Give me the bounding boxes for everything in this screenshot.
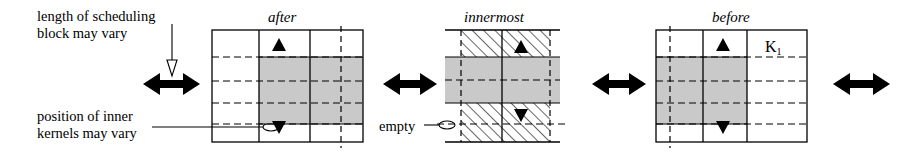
block-innermost-hatch-bottom [461, 103, 550, 142]
block-before-arrow-down [716, 121, 730, 134]
double-arrow-after-innermost [383, 73, 437, 95]
block-before [656, 26, 807, 148]
double-arrow-left [143, 73, 200, 95]
double-arrow-right [833, 73, 890, 95]
block-innermost [437, 30, 568, 142]
figure-canvas: length of scheduling block may vary posi… [0, 0, 901, 155]
block-before-arrow-up [716, 38, 730, 51]
double-arrow-innermost-before [592, 73, 646, 95]
block-after-shade [259, 57, 363, 124]
block-innermost-hatch-top [461, 30, 550, 57]
block-after [212, 26, 363, 148]
block-after-arrow-up [272, 38, 286, 51]
leader-empty-note [424, 121, 455, 129]
leader-length-note [167, 24, 177, 76]
figure-vector-layer [0, 0, 901, 155]
